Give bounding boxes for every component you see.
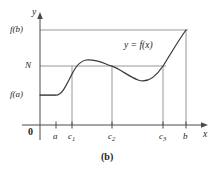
x-tick-label-c1-sub: 1 [72, 135, 75, 142]
function-curve [40, 30, 186, 95]
function-graph-svg [0, 0, 219, 173]
x-tick-label-b-base: b [183, 131, 188, 141]
curve-annotation-label: y = f(x) [124, 41, 153, 51]
figure-container: y x 0 f(b) N f(a) a c1 c2 c3 b y = f(x) … [0, 0, 219, 173]
y-axis-label: y [32, 8, 36, 18]
x-axis-arrow-icon [201, 122, 208, 128]
y-value-label-n: N [25, 61, 31, 70]
x-tick-label-b: b [183, 132, 188, 141]
y-axis-arrow-icon [37, 12, 43, 19]
x-tick-label-c2-sub: 2 [112, 135, 115, 142]
x-axis-label: x [203, 130, 207, 140]
y-value-label-fb: f(b) [10, 25, 23, 34]
y-value-label-fa: f(a) [10, 90, 23, 99]
x-tick-label-c1: c1 [68, 132, 75, 141]
x-tick-label-c3-sub: 3 [163, 135, 166, 142]
x-tick-label-a-base: a [53, 131, 58, 141]
origin-label: 0 [28, 127, 33, 137]
x-tick-label-c2: c2 [108, 132, 115, 141]
x-tick-label-a: a [53, 132, 58, 141]
figure-caption: (b) [101, 152, 113, 162]
x-tick-label-c3: c3 [159, 132, 166, 141]
